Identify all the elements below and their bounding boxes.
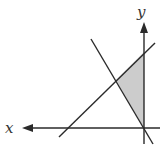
x-axis-label: x bbox=[5, 119, 14, 137]
y-axis-arrow-icon bbox=[140, 22, 148, 33]
x-axis-arrow-icon bbox=[22, 124, 33, 132]
y-axis-label: y bbox=[136, 3, 146, 21]
diagram-canvas: x y bbox=[0, 0, 164, 154]
shaded-region bbox=[116, 52, 144, 128]
